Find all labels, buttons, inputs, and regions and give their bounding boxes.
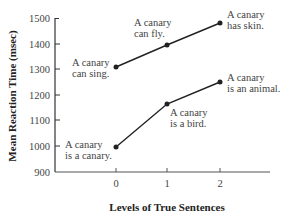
svg-text:1100: 1100 [29,115,50,126]
x-axis-title: Levels of True Sentences [109,201,225,213]
annotations-category: A canary is a canary. A canary is a bird… [65,72,280,161]
svg-text:is a canary.: is a canary. [65,150,112,161]
svg-text:1400: 1400 [29,39,50,50]
line-chart: 1500 1400 1300 1200 1100 1000 900 0 1 2 … [0,0,296,220]
data-point [165,43,170,48]
svg-text:has skin.: has skin. [227,20,264,31]
data-point [114,145,119,150]
data-point [218,80,223,85]
svg-text:1000: 1000 [29,141,50,152]
x-tick-labels: 0 1 2 [113,178,222,189]
svg-text:A canary: A canary [227,72,265,83]
svg-text:1300: 1300 [29,64,50,75]
y-ticks [55,44,60,146]
svg-text:2: 2 [217,178,222,189]
svg-text:1: 1 [164,178,169,189]
svg-text:can fly.: can fly. [134,28,165,39]
svg-text:1200: 1200 [29,90,50,101]
svg-text:A canary: A canary [134,17,172,28]
svg-text:A canary: A canary [72,57,110,68]
svg-text:1500: 1500 [29,13,50,24]
y-tick-labels: 1500 1400 1300 1200 1100 1000 900 [29,13,50,178]
svg-text:is an animal.: is an animal. [227,83,280,94]
svg-text:can sing.: can sing. [72,68,109,79]
svg-text:A canary: A canary [170,107,208,118]
svg-text:0: 0 [113,178,118,189]
y-axis-title: Mean Reaction Time (msec) [6,30,19,162]
data-point [165,102,170,107]
svg-text:A canary: A canary [65,139,103,150]
svg-text:900: 900 [34,167,50,178]
data-point [218,21,223,26]
data-point [114,65,119,70]
svg-text:is a bird.: is a bird. [170,118,206,129]
svg-text:A canary: A canary [227,9,265,20]
